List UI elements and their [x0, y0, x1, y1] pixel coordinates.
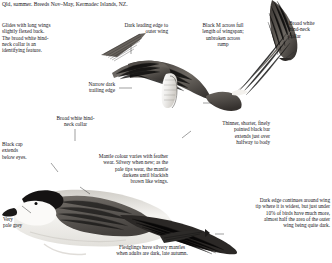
caption-thinner-bar: Thinner, shorter, finely pointed black b… [192, 120, 270, 145]
caption-broad-white-collar-top: Broad white hind-neck collar [289, 20, 332, 39]
caption-black-cap: Black cap extends below eyes. [2, 141, 48, 160]
caption-dark-edge: Dark edge continues around wing tip wher… [218, 197, 330, 228]
caption-mantle-colour: Mantle colour varies with feather wear. … [56, 153, 168, 184]
caption-fledglings: Fledglings have silvery mantles when adu… [78, 244, 226, 257]
caption-narrow-trailing-edge: Narrow dark trailing edge [60, 81, 115, 94]
caption-black-m: Black M across full length of wingspan; … [186, 22, 260, 47]
caption-very-pale-grey: Very pale grey [3, 216, 37, 229]
caption-glides: Glides with long wings slightly flexed b… [2, 22, 76, 53]
wing-tip-vignette-a [101, 33, 146, 61]
caption-dark-leading-edge: Dark leading edge to outer wing [96, 22, 168, 35]
illustration-plate: Qld, summer. Breeds Nov–May, Kermadec Is… [0, 0, 332, 263]
plate-header: Qld, summer. Breeds Nov–May, Kermadec Is… [2, 1, 252, 8]
caption-broad-white-collar-left: Broad white hind- neck collar [44, 115, 107, 128]
